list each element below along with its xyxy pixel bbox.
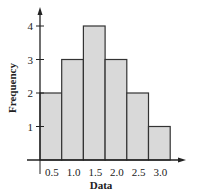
x-axis-title: Data <box>90 179 113 191</box>
x-axis-arrow-icon <box>178 158 186 163</box>
x-tick-label: 3.0 <box>153 166 167 178</box>
histogram-bar <box>83 26 105 160</box>
histogram-bar <box>149 127 171 161</box>
x-tick-label: 2.5 <box>132 166 146 178</box>
histogram-bar <box>62 60 84 161</box>
y-axis-arrow-icon <box>38 7 43 15</box>
y-tick-label: 4 <box>28 20 34 32</box>
y-tick-label: 1 <box>28 121 34 133</box>
histogram-bar <box>127 93 149 160</box>
bars <box>40 26 170 160</box>
x-tick-label: 1.5 <box>88 166 102 178</box>
x-tick-label: 2.0 <box>110 166 124 178</box>
x-ticks: 0.51.01.52.02.53.0 <box>45 166 168 178</box>
y-tick-label: 3 <box>28 54 34 66</box>
x-tick-label: 0.5 <box>45 166 59 178</box>
histogram-bar <box>105 60 127 161</box>
y-axis-title: Frequency <box>6 63 18 113</box>
y-tick-label: 2 <box>28 87 34 99</box>
histogram-chart: 1234 0.51.01.52.02.53.0 Frequency Data <box>0 0 198 195</box>
x-tick-label: 1.0 <box>67 166 81 178</box>
